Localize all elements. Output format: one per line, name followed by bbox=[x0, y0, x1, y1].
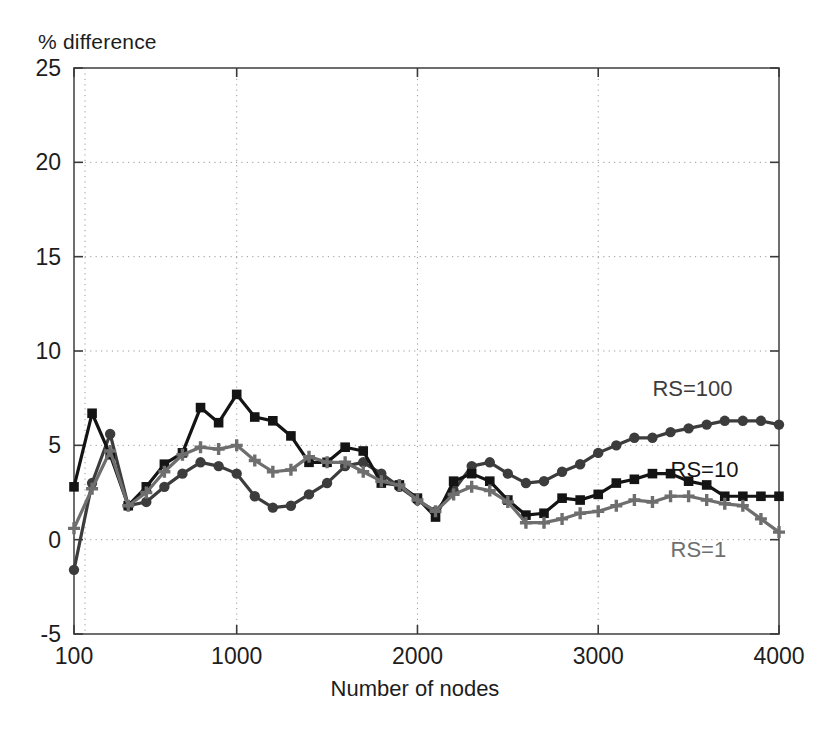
data-point-marker bbox=[467, 469, 477, 479]
data-point-marker bbox=[503, 468, 513, 478]
series-label-rs-100: RS=100 bbox=[652, 376, 732, 401]
data-point-marker bbox=[701, 419, 711, 429]
series-rs-1 bbox=[68, 439, 785, 538]
data-point-marker bbox=[646, 496, 658, 508]
data-point-marker bbox=[357, 466, 369, 478]
data-point-marker bbox=[612, 478, 622, 488]
data-point-marker bbox=[195, 441, 207, 453]
data-point-marker bbox=[575, 495, 585, 505]
data-point-marker bbox=[286, 431, 296, 441]
data-point-marker bbox=[69, 482, 79, 492]
data-point-marker bbox=[358, 446, 368, 456]
y-tick-label: 20 bbox=[35, 149, 61, 175]
line-chart-plot: -505101520251001000200030004000 RS=100RS… bbox=[0, 0, 820, 730]
x-axis-title: Number of nodes bbox=[331, 676, 500, 701]
data-point-marker bbox=[68, 522, 80, 534]
data-point-marker bbox=[340, 442, 350, 452]
x-tick-label: 2000 bbox=[392, 643, 443, 669]
data-point-marker bbox=[232, 390, 242, 400]
data-point-marker bbox=[630, 474, 640, 484]
data-point-marker bbox=[213, 461, 223, 471]
x-tick-label: 100 bbox=[55, 643, 93, 669]
data-point-marker bbox=[268, 502, 278, 512]
data-point-marker bbox=[575, 459, 585, 469]
y-tick-label: 5 bbox=[48, 432, 61, 458]
data-point-marker bbox=[665, 490, 677, 502]
data-point-marker bbox=[592, 505, 604, 517]
series-rs-10 bbox=[69, 390, 784, 522]
data-point-marker bbox=[268, 416, 278, 426]
y-tick-label: 15 bbox=[35, 244, 61, 270]
data-point-marker bbox=[557, 467, 567, 477]
data-point-marker bbox=[557, 493, 567, 503]
data-point-marker bbox=[574, 507, 586, 519]
data-point-marker bbox=[683, 423, 693, 433]
x-tick-label: 4000 bbox=[753, 643, 804, 669]
data-point-marker bbox=[485, 476, 495, 486]
data-point-marker bbox=[738, 416, 748, 426]
data-point-marker bbox=[322, 478, 332, 488]
data-point-marker bbox=[665, 427, 675, 437]
data-point-marker bbox=[593, 448, 603, 458]
data-point-marker bbox=[556, 513, 568, 525]
data-point-marker bbox=[683, 490, 695, 502]
y-tick-label: 10 bbox=[35, 338, 61, 364]
data-point-marker bbox=[701, 494, 713, 506]
data-point-marker bbox=[539, 476, 549, 486]
data-point-marker bbox=[648, 469, 658, 479]
data-point-marker bbox=[521, 478, 531, 488]
data-point-marker bbox=[231, 468, 241, 478]
data-point-marker bbox=[159, 482, 169, 492]
data-point-marker bbox=[466, 481, 478, 493]
data-point-marker bbox=[539, 508, 549, 518]
y-tick-label: 25 bbox=[35, 55, 61, 81]
data-point-marker bbox=[485, 457, 495, 467]
data-point-marker bbox=[69, 565, 79, 575]
data-point-marker bbox=[738, 491, 748, 501]
data-point-marker bbox=[610, 500, 622, 512]
data-point-marker bbox=[304, 489, 314, 499]
data-point-marker bbox=[195, 457, 205, 467]
data-point-marker bbox=[538, 517, 550, 529]
data-point-marker bbox=[214, 418, 224, 428]
data-point-marker bbox=[593, 490, 603, 500]
data-point-marker bbox=[647, 433, 657, 443]
data-point-marker bbox=[756, 491, 766, 501]
data-point-marker bbox=[196, 403, 206, 413]
x-tick-label: 1000 bbox=[211, 643, 262, 669]
data-point-marker bbox=[87, 408, 97, 418]
series-label-rs-1: RS=1 bbox=[671, 537, 727, 562]
data-point-marker bbox=[611, 440, 621, 450]
x-tick-label: 3000 bbox=[573, 643, 624, 669]
chart-figure: % difference -50510152025100100020003000… bbox=[0, 0, 820, 730]
data-point-marker bbox=[250, 412, 260, 422]
data-point-marker bbox=[628, 494, 640, 506]
data-point-marker bbox=[105, 429, 115, 439]
data-point-marker bbox=[250, 491, 260, 501]
data-point-marker bbox=[774, 491, 784, 501]
y-tick-label: 0 bbox=[48, 527, 61, 553]
data-point-marker bbox=[286, 501, 296, 511]
data-point-marker bbox=[177, 468, 187, 478]
data-point-marker bbox=[629, 433, 639, 443]
series-labels-group: RS=100RS=10RS=1 bbox=[652, 376, 738, 561]
axis-ticks: -505101520251001000200030004000 bbox=[35, 55, 804, 669]
data-point-marker bbox=[774, 419, 784, 429]
data-point-marker bbox=[449, 476, 459, 486]
data-point-marker bbox=[720, 416, 730, 426]
data-point-marker bbox=[756, 416, 766, 426]
series-label-rs-10: RS=10 bbox=[671, 457, 739, 482]
